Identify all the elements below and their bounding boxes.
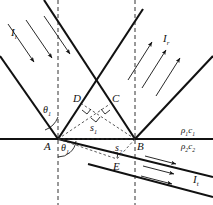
path-s2-label: s2 [115,143,122,155]
path-s1-label: s1 [90,123,97,135]
point-a-label: A [44,141,51,152]
incident-ray-lower [0,56,58,139]
wavefront-a-to-c [58,104,110,139]
point-e-label: E [113,161,120,172]
medium-lower-impedance-label: ρ2c2 [181,142,195,153]
point-c-label: C [112,93,119,104]
right-angle-mark-c [101,109,110,114]
incident-beam-label: Ii [11,27,17,41]
incident-arrow-2 [26,20,52,58]
reflected-arrow-3 [156,58,180,96]
figure-canvas: Ii Ir It D C A B E s1 s2 θ1 θ1 ρ1c1 ρ2c2 [0,0,213,205]
reflected-ray-upper [135,56,213,139]
reflected-ray-lower [58,9,143,139]
medium-upper-impedance-label: ρ1c1 [181,126,195,137]
transmitted-arrow-1 [145,156,176,164]
reflected-arrow-1 [128,42,152,80]
right-angle-mark-d [82,109,91,114]
angle-theta1-upper-label: θ1 [43,105,51,117]
ray-diagram-svg [0,0,213,205]
point-d-label: D [73,93,81,104]
incident-rays [0,0,135,139]
incident-direction-arrows [8,16,70,62]
transmitted-beam-label: It [193,174,199,188]
reflected-direction-arrows [128,42,180,96]
angle-theta1-lower-label: θ1 [61,143,69,155]
reflected-beam-label: Ir [163,33,169,47]
reflected-arrow-2 [142,50,166,88]
point-b-label: B [137,141,144,152]
right-angle-marks [82,109,118,158]
